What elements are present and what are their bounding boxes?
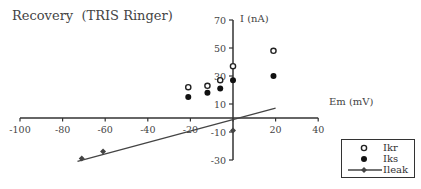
x-tick-label: 40: [312, 124, 324, 135]
ikr-point: [186, 85, 191, 90]
iks-point: [204, 90, 210, 96]
x-tick-label: -60: [98, 124, 113, 135]
filled-circle-icon: [342, 153, 382, 164]
legend-item-iks: Iks: [342, 153, 414, 164]
y-tick-label: 10: [214, 99, 226, 110]
ikr-point: [271, 48, 276, 53]
legend-label: Iks: [383, 153, 398, 164]
legend-label: Ileak: [383, 164, 408, 175]
x-tick-label: -40: [140, 124, 155, 135]
y-axis-label: I (nA): [240, 13, 269, 24]
ileak-point: [230, 128, 236, 134]
legend: Ikr Iks Ileak: [341, 139, 415, 178]
legend-label: Ikr: [383, 142, 398, 153]
y-tick-label: -10: [211, 127, 226, 138]
iks-point: [217, 86, 223, 92]
line-diamond-icon: [342, 164, 382, 175]
open-circle-icon: [342, 142, 382, 153]
y-tick-label: -30: [211, 155, 226, 166]
x-tick-label: -100: [9, 124, 30, 135]
legend-item-ileak: Ileak: [342, 164, 414, 175]
iks-point: [230, 77, 236, 83]
ikr-point: [230, 64, 235, 69]
y-tick-label: 50: [214, 43, 226, 54]
iks-point: [185, 94, 191, 100]
legend-item-ikr: Ikr: [342, 142, 414, 153]
x-tick-label: -80: [55, 124, 70, 135]
x-axis-label: Em (mV): [329, 96, 374, 107]
y-tick-label: 70: [214, 15, 226, 26]
ikr-point: [205, 83, 210, 88]
ikr-point: [218, 78, 223, 83]
iks-point: [270, 73, 276, 79]
x-tick-label: 20: [270, 124, 282, 135]
